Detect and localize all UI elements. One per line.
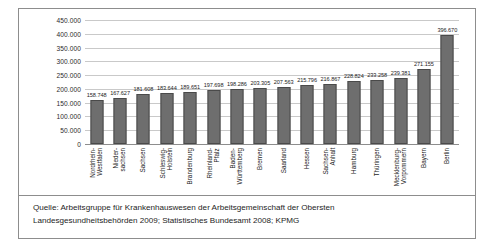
bar	[137, 94, 150, 144]
x-axis-category-label: Nieder-sachsen	[113, 148, 126, 171]
bar	[90, 100, 103, 144]
bar	[207, 90, 220, 144]
y-axis-tick-label: 250.000	[56, 72, 81, 79]
x-axis-category-label: Sachsen	[140, 148, 147, 173]
bar-group: 181.608Sachsen	[132, 20, 155, 144]
category-label-line: Hessen	[304, 148, 311, 169]
axis-baseline	[85, 144, 459, 145]
y-axis-tick-label: 350.000	[56, 44, 81, 51]
bar-value-label: 203.305	[250, 80, 270, 86]
bar-group: 239.381Mecklenburg-Vorpommern	[389, 20, 412, 144]
bar	[301, 85, 314, 144]
bar-group: 215.796Hessen	[295, 20, 318, 144]
bar-value-label: 158.748	[87, 92, 107, 98]
y-axis-tick-label: 400.000	[56, 30, 81, 37]
x-axis-category-label: Nordrhein-Westfalen	[90, 148, 103, 178]
y-axis-tick-label: 0	[77, 141, 81, 148]
bar-group: 189.651Brandenburg	[179, 20, 202, 144]
category-label-line: Berlin	[444, 148, 451, 164]
bar-group: 183.644Schleswig-Holstein	[155, 20, 178, 144]
bar	[184, 92, 197, 144]
bar-group: 271.155Bayern	[412, 20, 435, 144]
x-axis-category-label: Berlin	[444, 148, 451, 164]
x-axis-category-label: Bremen	[257, 148, 264, 170]
bar-value-label: 215.796	[297, 77, 317, 83]
x-axis-category-label: Sachsen-Anhalt	[324, 148, 337, 175]
bar-value-label: 167.627	[110, 90, 130, 96]
bar	[114, 98, 127, 144]
bar	[254, 88, 267, 144]
source-caption: Quelle: Arbeitsgruppe für Krankenhauswes…	[33, 202, 463, 227]
y-axis-tick-label: 50.000	[60, 127, 81, 134]
y-axis-tick-label: 100.000	[56, 113, 81, 120]
x-axis-category-label: Brandenburg	[187, 148, 194, 184]
caption-line-2: Landesgesundheitsbehörden 2009; Statisti…	[33, 215, 463, 228]
category-label-line: Brandenburg	[187, 148, 194, 184]
x-axis-category-label: Hamburg	[351, 148, 358, 174]
y-axis-tick-label: 450.000	[56, 17, 81, 24]
category-label-line: Westfalen	[97, 148, 104, 178]
caption-line-1: Quelle: Arbeitsgruppe für Krankenhauswes…	[33, 202, 463, 215]
bar-value-label: 207.563	[274, 79, 294, 85]
bar	[160, 93, 173, 144]
bar	[324, 84, 337, 144]
bar-value-label: 396.670	[437, 27, 457, 33]
bar-value-label: 183.644	[157, 85, 177, 91]
y-axis-tick-label: 200.000	[56, 85, 81, 92]
y-axis-tick-label: 150.000	[56, 99, 81, 106]
bar	[441, 35, 454, 144]
x-axis-category-label: Hessen	[304, 148, 311, 169]
bar-group: 167.627Nieder-sachsen	[108, 20, 131, 144]
bar	[417, 69, 430, 144]
bar-value-label: 228.824	[344, 73, 364, 79]
bar-series: 158.748Nordrhein-Westfalen167.627Nieder-…	[85, 20, 459, 144]
bar	[277, 87, 290, 144]
bar-value-label: 189.651	[180, 84, 200, 90]
bar-value-label: 239.381	[391, 70, 411, 76]
category-label-line: Thüringen	[374, 148, 381, 176]
bar-group: 198.286Baden-Württemberg	[225, 20, 248, 144]
x-axis-category-label: Mecklenburg-Vorpommern	[394, 148, 407, 186]
x-axis-category-label: Baden-Württemberg	[230, 148, 243, 184]
x-axis-category-label: Rheinland-Pfalz	[207, 148, 220, 178]
bar	[347, 81, 360, 144]
bar-value-label: 197.698	[204, 82, 224, 88]
chart-figure: 450.000400.000350.000300.000250.000200.0…	[18, 8, 476, 239]
bar-value-label: 198.286	[227, 81, 247, 87]
chart-axes: 450.000400.000350.000300.000250.000200.0…	[85, 20, 459, 144]
bar-value-label: 271.155	[414, 61, 434, 67]
category-label-line: Bayern	[421, 148, 428, 168]
chart-plot-area: 450.000400.000350.000300.000250.000200.0…	[19, 9, 475, 195]
bar	[394, 78, 407, 144]
category-label-line: Bremen	[257, 148, 264, 170]
bar-group: 216.867Sachsen-Anhalt	[319, 20, 342, 144]
x-axis-category-label: Saarland	[280, 148, 287, 173]
category-label-line: Saarland	[280, 148, 287, 173]
bar-group: 158.748Nordrhein-Westfalen	[85, 20, 108, 144]
x-axis-category-label: Thüringen	[374, 148, 381, 176]
category-label-line: sachsen	[120, 148, 127, 171]
category-label-line: Pfalz	[214, 148, 221, 178]
bar-group: 396.670Berlin	[436, 20, 459, 144]
bar	[371, 80, 384, 144]
category-label-line: Württemberg	[237, 148, 244, 184]
bar-value-label: 216.867	[321, 76, 341, 82]
bar-value-label: 181.608	[134, 86, 154, 92]
x-axis-category-label: Bayern	[421, 148, 428, 168]
bar-group: 207.563Saarland	[272, 20, 295, 144]
category-label-line: Holstein	[167, 148, 174, 178]
category-label-line: Sachsen	[140, 148, 147, 173]
x-axis-category-label: Schleswig-Holstein	[160, 148, 173, 178]
bar-value-label: 233.258	[367, 72, 387, 78]
y-axis-tick-label: 300.000	[56, 58, 81, 65]
bar-group: 197.698Rheinland-Pfalz	[202, 20, 225, 144]
category-label-line: Hamburg	[351, 148, 358, 174]
bar-group: 233.258Thüringen	[366, 20, 389, 144]
caption-divider	[19, 195, 475, 196]
category-label-line: Vorpommern	[401, 148, 408, 186]
bar-group: 203.305Bremen	[249, 20, 272, 144]
bar-group: 228.824Hamburg	[342, 20, 365, 144]
category-label-line: Anhalt	[330, 148, 337, 175]
bar	[230, 89, 243, 144]
